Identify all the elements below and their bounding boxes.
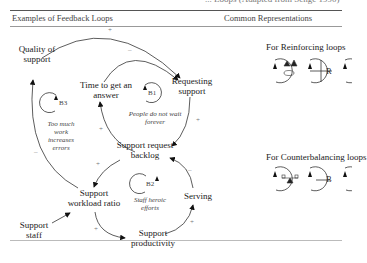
loop-b3-note: Too much work increases errors <box>44 120 78 152</box>
sign-backlog-time: + <box>99 125 103 133</box>
loop-b1-note: People do not wait forever <box>120 110 190 126</box>
sign-backlog-workload: + <box>96 160 100 168</box>
node-support-request-backlog: Support request backlog <box>112 140 178 160</box>
node-support-productivity: Support productivity <box>124 228 182 248</box>
node-requesting-support: Requesting support <box>168 76 216 96</box>
node-serving: Serving <box>178 191 218 201</box>
sign-workload-productivity: + <box>94 225 98 233</box>
loop-b1-label: B1 <box>148 89 156 97</box>
balancing-title: For Counterbalancing loops <box>266 152 367 162</box>
sign-time-requesting: – <box>128 46 132 54</box>
sign-productivity-serving: + <box>190 218 194 226</box>
sign-quality-requesting: + <box>108 26 112 34</box>
loop-b2-note: Staff heroic efforts <box>128 196 172 212</box>
loop-b3-label: B3 <box>59 99 67 107</box>
node-support-workload-ratio: Support workload ratio <box>62 188 126 208</box>
loop-b2-label: B2 <box>146 180 154 188</box>
node-quality-of-support: Quality of support <box>12 44 62 64</box>
sign-requesting-backlog: + <box>196 116 200 124</box>
node-time-to-get-answer: Time to get an answer <box>76 80 136 100</box>
sign-workload-quality: – <box>34 148 38 156</box>
reinforcing-r-label: R <box>322 67 336 77</box>
node-support-staff: Support staff <box>14 220 54 240</box>
sign-serving-backlog: – <box>188 166 192 174</box>
reinforcing-title: For Reinforcing loops <box>266 42 346 52</box>
balancing-b-label: B <box>322 175 336 185</box>
